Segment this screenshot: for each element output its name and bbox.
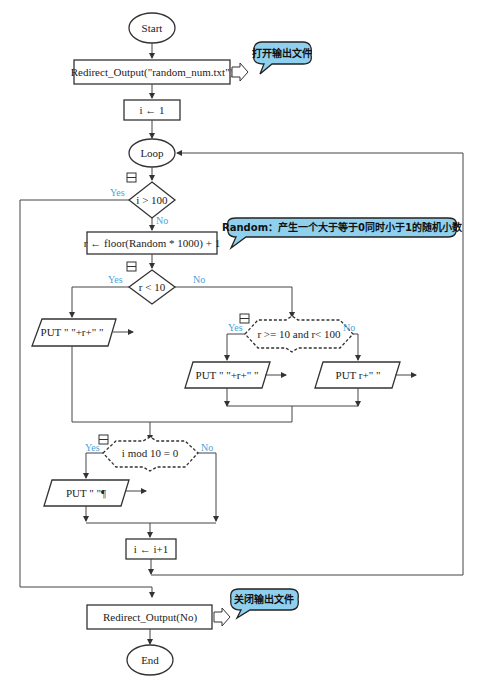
flowchart: Start Redirect_Output("random_num.txt") … [0, 0, 480, 689]
svg-text:打开输出文件: 打开输出文件 [252, 47, 312, 59]
decision-r-between-10-100[interactable]: r >= 10 and r< 100 [245, 316, 353, 352]
yes-label: Yes [108, 274, 123, 285]
put-small-output[interactable]: PUT " "+r+" " [32, 319, 116, 346]
callout-open-file: 打开输出文件 [252, 42, 312, 74]
svg-text:PUT r+" ": PUT r+" " [336, 369, 381, 381]
svg-text:i > 100: i > 100 [136, 194, 168, 206]
end-terminal[interactable]: End [127, 645, 173, 675]
yes-label: Yes [228, 322, 243, 333]
no-label: No [343, 322, 355, 333]
callout-close-file: 关闭输出文件 [231, 589, 299, 618]
svg-text:Random：产生一个大于等于0同时小于1的随机小数: Random：产生一个大于等于0同时小于1的随机小数 [222, 221, 463, 233]
redirect-output-open-box[interactable]: Redirect_Output("random_num.txt") [71, 60, 234, 84]
init-i-box[interactable]: i ← 1 [124, 100, 180, 120]
svg-text:PUT " "+r+" ": PUT " "+r+" " [41, 326, 104, 338]
no-label: No [156, 215, 168, 226]
svg-text:r < 10: r < 10 [139, 281, 166, 293]
svg-text:Redirect_Output(No): Redirect_Output(No) [103, 611, 197, 624]
svg-text:PUT " "¶: PUT " "¶ [66, 487, 106, 499]
collapse-icon[interactable] [127, 173, 136, 182]
svg-text:i ← i+1: i ← i+1 [134, 543, 168, 555]
no-label: No [201, 442, 213, 453]
svg-text:End: End [141, 654, 159, 666]
assign-r-box[interactable]: r ← floor(Random * 1000) + 1 [84, 232, 220, 254]
svg-text:r >= 10 and r< 100: r >= 10 and r< 100 [257, 328, 341, 340]
svg-text:Loop: Loop [140, 147, 164, 159]
yes-label: Yes [85, 442, 100, 453]
decision-i-gt-100[interactable]: i > 100 [129, 182, 175, 218]
svg-text:PUT " "+r+" ": PUT " "+r+" " [196, 369, 259, 381]
put-newline-output[interactable]: PUT " "¶ [44, 480, 129, 506]
decision-r-lt-10[interactable]: r < 10 [129, 270, 175, 304]
yes-label: Yes [110, 187, 125, 198]
no-label: No [193, 274, 205, 285]
svg-text:关闭输出文件: 关闭输出文件 [234, 593, 294, 605]
svg-text:Start: Start [142, 22, 163, 34]
put-big-output[interactable]: PUT r+" " [315, 362, 400, 388]
collapse-icon[interactable] [99, 435, 108, 444]
svg-text:r ← floor(Random * 1000) + 1: r ← floor(Random * 1000) + 1 [84, 237, 220, 250]
redirect-output-close-box[interactable]: Redirect_Output(No) [87, 605, 212, 629]
loop-terminal[interactable]: Loop [129, 139, 175, 167]
collapse-icon[interactable] [127, 262, 136, 271]
svg-text:Redirect_Output("random_num.tx: Redirect_Output("random_num.txt") [71, 66, 234, 79]
svg-text:i ← 1: i ← 1 [139, 104, 164, 116]
put-mid-output[interactable]: PUT " "+r+" " [185, 362, 270, 388]
hollow-arrow-icon [232, 63, 248, 81]
hollow-arrow-icon [214, 608, 230, 626]
start-terminal[interactable]: Start [129, 13, 175, 43]
callout-random-note: Random：产生一个大于等于0同时小于1的随机小数 [222, 218, 463, 248]
decision-i-mod-10[interactable]: i mod 10 = 0 [103, 437, 198, 471]
increment-i-box[interactable]: i ← i+1 [126, 539, 176, 559]
svg-text:i mod 10 = 0: i mod 10 = 0 [122, 447, 179, 459]
